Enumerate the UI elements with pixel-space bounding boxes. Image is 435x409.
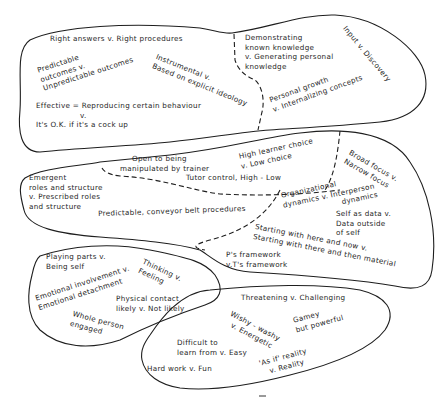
label-line: Effective = Reproducing certain behaviou… — [36, 101, 201, 111]
label-line: Threatening v. Challenging — [241, 293, 345, 303]
label-line: knowledge — [245, 62, 333, 72]
label-demonstrating: Demonstratingknown knowledgev. Generatin… — [245, 33, 333, 71]
label-open-to-being: Open to beingmanipulated by trainer — [120, 154, 209, 173]
label-line: v. — [36, 111, 201, 121]
label-line: Tutor control, High - Low — [186, 173, 281, 183]
label-self-as-data: Self as data v.Data outsideof self — [336, 209, 391, 238]
label-line: Open to being — [120, 154, 209, 164]
label-line: learn from v. Easy — [177, 348, 247, 358]
label-hard-work-fun: Hard work v. Fun — [147, 364, 212, 374]
label-effective: Effective = Reproducing certain behaviou… — [36, 101, 201, 130]
label-line: v. Prescribed roles — [29, 192, 103, 202]
label-line: of self — [336, 228, 391, 238]
label-line: roles and structure — [29, 183, 103, 193]
label-physical-contact: Physical contactlikely v. Not likely — [116, 294, 185, 313]
label-line: known knowledge — [245, 43, 333, 53]
label-line: and structure — [29, 202, 103, 212]
label-line: v.T's framework — [226, 260, 288, 270]
label-line: Data outside — [336, 219, 391, 229]
label-line: Hard work v. Fun — [147, 364, 212, 374]
label-playing-parts: Playing parts v.Being self — [46, 252, 106, 271]
label-line: P's framework — [226, 250, 288, 260]
label-line: Self as data v. — [336, 209, 391, 219]
label-line: Difficult to — [177, 338, 247, 348]
label-threatening-challenging: Threatening v. Challenging — [241, 293, 345, 303]
label-line: It's O.K. if it's a cock up — [36, 120, 201, 130]
label-line: v. Generating personal — [245, 52, 333, 62]
label-emergent-roles: Emergentroles and structurev. Prescribed… — [29, 173, 103, 211]
label-line: Demonstrating — [245, 33, 333, 43]
label-line: Physical contact — [116, 294, 185, 304]
label-tutor-control: Tutor control, High - Low — [186, 173, 281, 183]
label-line: likely v. Not likely — [116, 304, 185, 314]
label-ps-framework: P's frameworkv.T's framework — [226, 250, 288, 269]
label-line: Emergent — [29, 173, 103, 183]
label-line: manipulated by trainer — [120, 164, 209, 174]
label-difficult-to-learn: Difficult tolearn from v. Easy — [177, 338, 247, 357]
label-line: Being self — [46, 262, 106, 272]
label-line: Playing parts v. — [46, 252, 106, 262]
